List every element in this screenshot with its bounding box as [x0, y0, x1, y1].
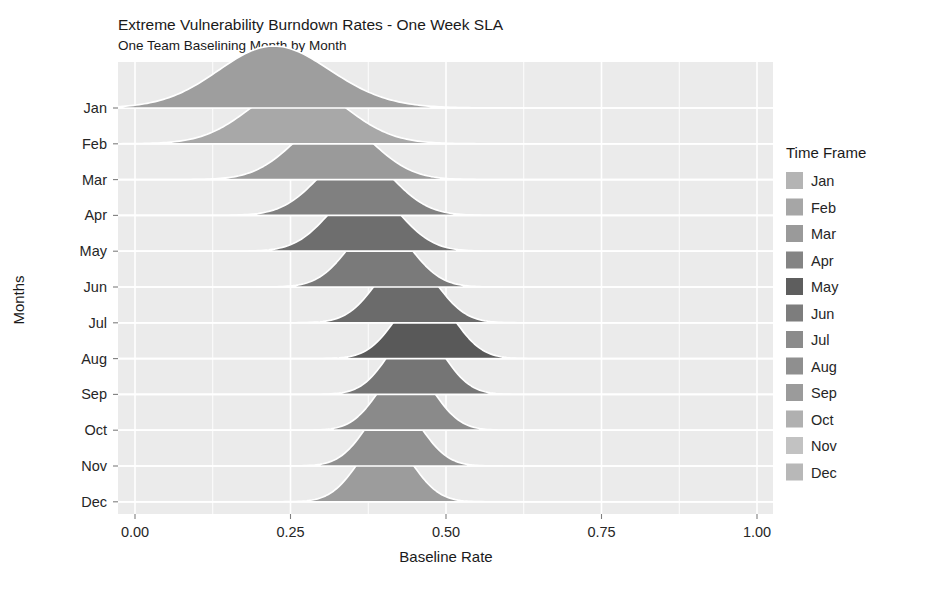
legend-label-jul[interactable]: Jul — [811, 332, 830, 348]
chart-canvas: Extreme Vulnerability Burndown Rates - O… — [0, 0, 928, 600]
legend-swatch-feb[interactable] — [786, 199, 803, 216]
ridgeline-chart: Extreme Vulnerability Burndown Rates - O… — [0, 0, 928, 600]
legend-swatch-jun[interactable] — [786, 305, 803, 322]
y-tick-label-dec: Dec — [81, 494, 107, 510]
legend-title: Time Frame — [786, 144, 866, 161]
legend-label-apr[interactable]: Apr — [811, 253, 834, 269]
x-axis-title: Baseline Rate — [399, 548, 492, 565]
legend-swatch-apr[interactable] — [786, 252, 803, 269]
legend-swatch-jul[interactable] — [786, 331, 803, 348]
legend-label-oct[interactable]: Oct — [811, 412, 834, 428]
y-tick-label-jul: Jul — [88, 315, 107, 331]
y-tick-label-jun: Jun — [84, 279, 107, 295]
y-axis-title: Months — [10, 275, 27, 324]
legend-label-aug[interactable]: Aug — [811, 359, 837, 375]
y-tick-label-feb: Feb — [82, 136, 107, 152]
chart-subtitle: One Team Baselining Month by Month — [118, 38, 347, 53]
legend-swatch-may[interactable] — [786, 278, 803, 295]
legend-label-jun[interactable]: Jun — [811, 306, 834, 322]
legend-label-feb[interactable]: Feb — [811, 200, 836, 216]
legend-swatch-mar[interactable] — [786, 225, 803, 242]
y-tick-label-aug: Aug — [81, 351, 107, 367]
legend-label-mar[interactable]: Mar — [811, 226, 836, 242]
x-tick-label: 0.75 — [587, 524, 615, 540]
y-tick-label-mar: Mar — [82, 172, 107, 188]
x-tick-label: 0.00 — [121, 524, 149, 540]
legend-swatch-aug[interactable] — [786, 358, 803, 375]
x-tick-label: 1.00 — [743, 524, 771, 540]
y-tick-label-apr: Apr — [84, 207, 107, 223]
legend-label-dec[interactable]: Dec — [811, 465, 837, 481]
legend-label-nov[interactable]: Nov — [811, 438, 838, 454]
legend-swatch-oct[interactable] — [786, 411, 803, 428]
y-tick-label-may: May — [80, 243, 108, 259]
legend-swatch-jan[interactable] — [786, 172, 803, 189]
legend-label-sep[interactable]: Sep — [811, 385, 837, 401]
x-tick-label: 0.25 — [276, 524, 304, 540]
legend-swatch-dec[interactable] — [786, 464, 803, 481]
chart-title: Extreme Vulnerability Burndown Rates - O… — [118, 16, 504, 33]
y-tick-label-oct: Oct — [84, 422, 107, 438]
y-tick-label-jan: Jan — [84, 100, 107, 116]
legend-label-jan[interactable]: Jan — [811, 173, 834, 189]
y-tick-label-nov: Nov — [81, 458, 108, 474]
legend-label-may[interactable]: May — [811, 279, 839, 295]
legend-swatch-sep[interactable] — [786, 384, 803, 401]
legend-swatch-nov[interactable] — [786, 437, 803, 454]
y-tick-label-sep: Sep — [81, 386, 107, 402]
x-tick-label: 0.50 — [432, 524, 460, 540]
